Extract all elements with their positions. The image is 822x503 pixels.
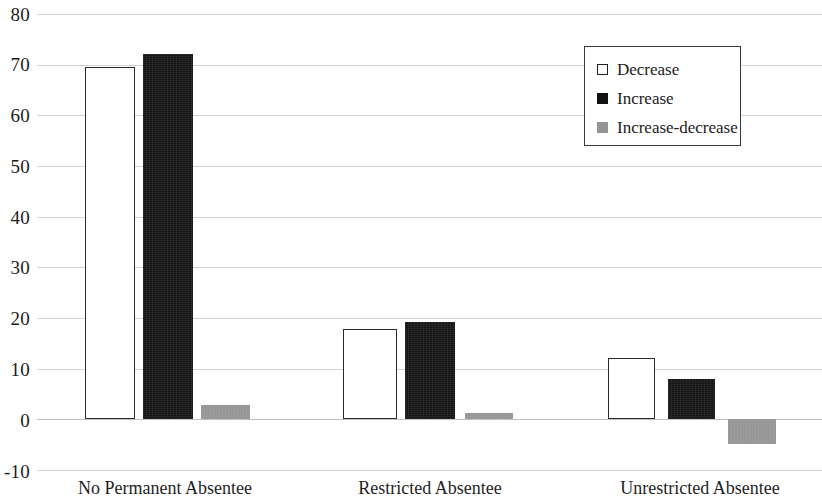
y-tick-label: 20 bbox=[0, 309, 30, 328]
legend-item-increase-decrease: Increase-decrease bbox=[597, 113, 740, 142]
bar-unrestricted-absentee-increase bbox=[668, 379, 715, 419]
open-square-icon bbox=[597, 64, 608, 75]
y-tick-label: 50 bbox=[0, 157, 30, 176]
y-tick-label: 10 bbox=[0, 360, 30, 379]
x-tick-label-restricted-absentee: Restricted Absentee bbox=[330, 479, 530, 497]
bar-restricted-absentee-increase bbox=[405, 322, 455, 420]
filled-gray-square-icon bbox=[597, 122, 608, 133]
gridline-minus10 bbox=[37, 470, 822, 471]
filled-black-square-icon bbox=[597, 93, 608, 104]
bar-restricted-absentee-decrease bbox=[343, 329, 397, 419]
bar-chart: 80 70 60 50 40 30 20 10 0 -10 No bbox=[0, 0, 822, 503]
y-tick-label: -10 bbox=[0, 462, 30, 481]
legend-label-increase: Increase bbox=[617, 90, 674, 107]
y-tick-label: 70 bbox=[0, 55, 30, 74]
bar-no-permanent-absentee-decrease bbox=[85, 67, 135, 419]
gridline-80 bbox=[37, 14, 822, 15]
y-tick-label: 30 bbox=[0, 258, 30, 277]
legend-item-decrease: Decrease bbox=[597, 55, 740, 84]
bar-restricted-absentee-increase-decrease bbox=[465, 413, 513, 419]
y-tick-label: 0 bbox=[0, 411, 30, 430]
y-tick-label: 40 bbox=[0, 208, 30, 227]
x-tick-label-unrestricted-absentee: Unrestricted Absentee bbox=[600, 479, 800, 497]
legend-label-decrease: Decrease bbox=[617, 61, 679, 78]
bar-unrestricted-absentee-decrease bbox=[608, 358, 655, 420]
bar-no-permanent-absentee-increase bbox=[143, 54, 193, 420]
y-tick-label: 80 bbox=[0, 5, 30, 24]
y-axis-labels: 80 70 60 50 40 30 20 10 0 -10 bbox=[0, 0, 30, 503]
chart-legend: Decrease Increase Increase-decrease bbox=[584, 46, 741, 146]
y-tick-label: 60 bbox=[0, 106, 30, 125]
legend-item-increase: Increase bbox=[597, 84, 740, 113]
gridline-zero bbox=[37, 419, 822, 420]
bar-unrestricted-absentee-increase-decrease bbox=[728, 419, 776, 443]
x-tick-label-no-permanent-absentee: No Permanent Absentee bbox=[65, 479, 265, 497]
legend-label-increase-decrease: Increase-decrease bbox=[617, 119, 738, 136]
bar-no-permanent-absentee-increase-decrease bbox=[201, 405, 250, 419]
